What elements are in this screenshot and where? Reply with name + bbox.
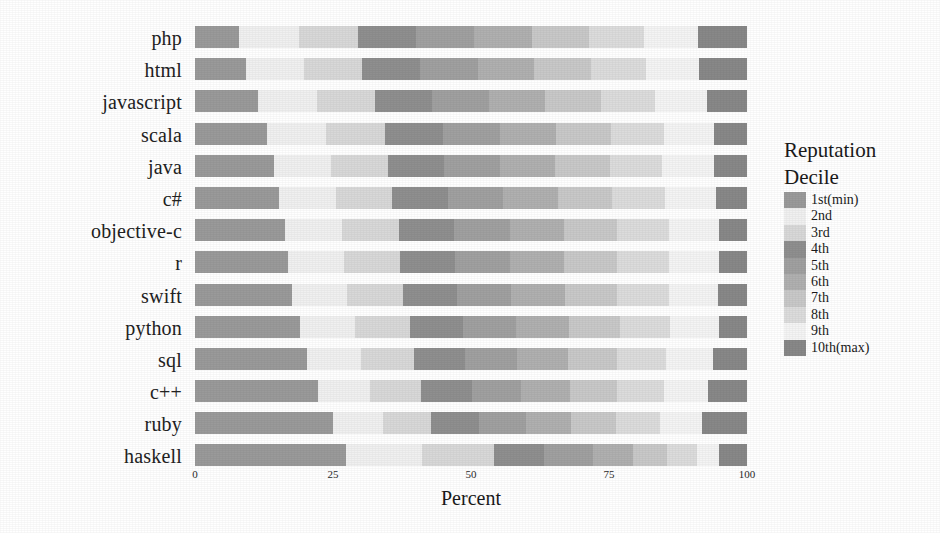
bar-segment (267, 123, 327, 145)
bar-row (195, 247, 747, 279)
legend-swatch (784, 241, 806, 257)
bar-segment (664, 380, 709, 402)
stacked-bar (195, 444, 747, 466)
bar-segment (534, 58, 590, 80)
bar-segment (589, 26, 645, 48)
bar-segment (489, 90, 545, 112)
legend-item: 5th (784, 258, 934, 274)
bar-segment (545, 90, 601, 112)
bar-segment (432, 90, 489, 112)
bar-segment (555, 155, 609, 177)
legend-swatch (784, 258, 806, 274)
legend-item: 7th (784, 290, 934, 306)
legend-swatch (784, 340, 806, 356)
stacked-bar (195, 26, 747, 48)
legend-label: 5th (811, 258, 829, 274)
bar-segment (292, 284, 348, 306)
bar-segment (195, 26, 239, 48)
bar-segment (383, 412, 432, 434)
bar-segment (474, 26, 531, 48)
bar-segment (697, 444, 720, 466)
bar-segment (617, 251, 669, 273)
legend-label: 8th (811, 307, 829, 323)
stacked-bar (195, 187, 747, 209)
bar-segment (410, 316, 464, 338)
y-axis-label: r (0, 247, 182, 279)
bar-segment (448, 187, 503, 209)
bar-segment (669, 219, 719, 241)
bar-segment (716, 187, 747, 209)
bar-segment (617, 380, 663, 402)
y-axis-label: sql (0, 344, 182, 376)
bar-segment (698, 26, 747, 48)
bar-segment (288, 251, 344, 273)
bar-row (195, 22, 747, 54)
bar-segment (503, 187, 558, 209)
legend-title-line2: Decile (784, 165, 934, 190)
bar-segment (443, 123, 500, 145)
bar-segment (239, 26, 299, 48)
bar-row (195, 119, 747, 151)
bar-segment (400, 251, 455, 273)
bar-segment (195, 412, 333, 434)
legend-label: 4th (811, 241, 829, 257)
bar-segment (422, 444, 494, 466)
bar-segment (317, 90, 375, 112)
bar-segment (564, 251, 617, 273)
bar-segment (511, 284, 565, 306)
stacked-bar (195, 284, 747, 306)
bar-segment (463, 316, 516, 338)
bar-segment (616, 412, 660, 434)
bar-segment (392, 187, 448, 209)
y-axis-label: scala (0, 119, 182, 151)
x-tick-label: 25 (328, 468, 339, 480)
stacked-bar (195, 380, 747, 402)
bar-segment (455, 251, 510, 273)
bar-segment (346, 444, 422, 466)
legend-swatch (784, 208, 806, 224)
bar-segment (719, 251, 747, 273)
bar-segment (431, 412, 478, 434)
bar-segment (307, 348, 361, 370)
bar-segment (718, 284, 747, 306)
bar-segment (620, 316, 670, 338)
bar-segment (414, 348, 466, 370)
bar-segment (195, 284, 292, 306)
bar-segment (714, 155, 747, 177)
legend-label: 10th(max) (811, 340, 869, 356)
bar-segment (355, 316, 410, 338)
stacked-bar (195, 90, 747, 112)
bar-segment (388, 155, 444, 177)
x-tick-label: 75 (604, 468, 615, 480)
bar-segment (617, 284, 668, 306)
bar-segment (719, 219, 747, 241)
bar-segment (593, 444, 633, 466)
bar-segment (195, 348, 307, 370)
stacked-bar-chart: phphtmljavascriptscalajavac#objective-cr… (0, 0, 940, 533)
bar-segment (646, 58, 699, 80)
bar-segment (702, 412, 747, 434)
bar-segment (665, 187, 716, 209)
bar-segment (465, 348, 516, 370)
bar-segment (195, 444, 346, 466)
plot-area: phphtmljavascriptscalajavac#objective-cr… (0, 0, 770, 533)
bar-segment (318, 380, 370, 402)
legend-swatch (784, 192, 806, 208)
bar-segment (565, 284, 617, 306)
legend-swatch (784, 307, 806, 323)
bar-segment (347, 284, 402, 306)
legend-item: 2nd (784, 208, 934, 224)
bar-segment (478, 58, 535, 80)
stacked-bar (195, 58, 747, 80)
bar-segment (662, 155, 713, 177)
bar-segment (699, 58, 747, 80)
bar-segment (457, 284, 511, 306)
legend-label: 1st(min) (811, 192, 858, 208)
legend-item: 6th (784, 274, 934, 290)
bar-segment (510, 219, 564, 241)
y-axis-label: objective-c (0, 215, 182, 247)
bar-segment (601, 90, 655, 112)
bar-segment (568, 348, 618, 370)
bar-row (195, 312, 747, 344)
bar-segment (564, 219, 617, 241)
